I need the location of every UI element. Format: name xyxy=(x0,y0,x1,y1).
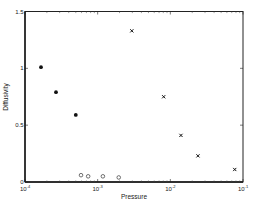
y-tick-label: 1 xyxy=(20,65,24,71)
y-tick-label: 0.5 xyxy=(15,122,24,128)
filled-dot-marker xyxy=(74,113,78,117)
y-tick-label: 0 xyxy=(20,179,24,185)
scatter-chart: 10-410-310-210-1 00.511.5 Pressure Diffu… xyxy=(0,0,256,204)
open-circle-marker xyxy=(117,176,121,180)
x-tick-label: 10-4 xyxy=(20,184,31,192)
x-marker xyxy=(179,134,182,137)
x-tick-label: 10-3 xyxy=(93,184,104,192)
x-tick-label: 10-1 xyxy=(238,184,249,192)
open-circle-marker xyxy=(86,175,90,179)
x-tick-label: 10-2 xyxy=(165,184,176,192)
filled-dot-marker xyxy=(54,90,58,94)
x-ticks: 10-410-310-210-1 xyxy=(20,12,249,193)
open-circle-marker xyxy=(101,175,105,179)
y-axis-label: Diffusivity xyxy=(2,82,10,110)
open-circle-marker xyxy=(79,173,83,177)
filled-dot-marker xyxy=(39,65,43,69)
x-marker xyxy=(130,29,133,32)
x-marker xyxy=(196,154,199,157)
x-axis-label: Pressure xyxy=(121,193,147,200)
data-points xyxy=(39,29,236,179)
x-marker xyxy=(162,95,165,98)
plot-frame xyxy=(25,12,243,183)
y-tick-label: 1.5 xyxy=(15,9,24,15)
y-ticks: 00.511.5 xyxy=(15,9,243,186)
x-marker xyxy=(233,168,236,171)
